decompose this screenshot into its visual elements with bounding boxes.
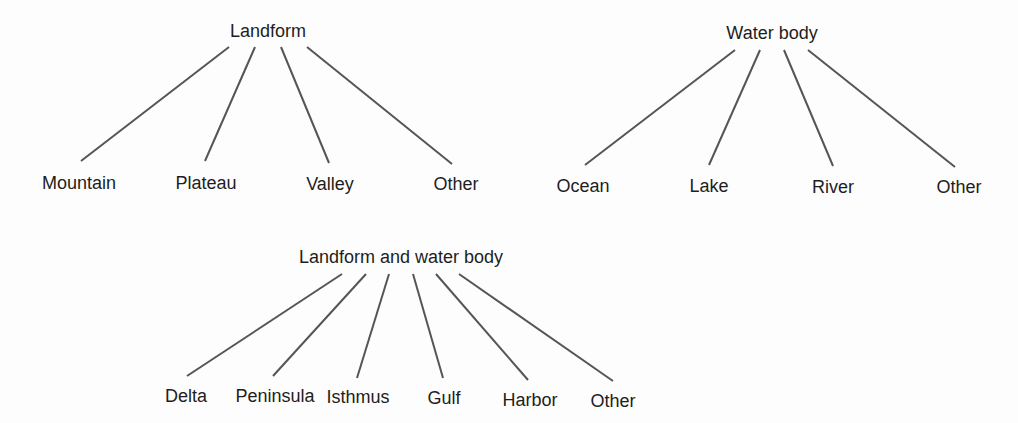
tree-leaf-peninsula: Peninsula (235, 387, 314, 405)
connector-line (808, 50, 955, 167)
tree-root-landform-and-water-body: Landform and water body (299, 248, 503, 266)
diagram-canvas: LandformMountainPlateauValleyOtherWater … (0, 0, 1018, 423)
connector-line (205, 47, 255, 161)
connector-line (81, 47, 229, 161)
connector-line (585, 50, 735, 165)
connector-line (357, 274, 389, 378)
tree-leaf-other: Other (936, 178, 981, 196)
tree-leaf-plateau: Plateau (175, 174, 236, 192)
tree-leaf-river: River (812, 178, 854, 196)
connector-line (307, 47, 452, 164)
tree-leaf-harbor: Harbor (502, 391, 557, 409)
connector-line (784, 50, 833, 166)
tree-leaf-mountain: Mountain (42, 174, 116, 192)
connector-line (413, 274, 443, 378)
tree-leaf-lake: Lake (689, 177, 728, 195)
tree-leaf-isthmus: Isthmus (326, 388, 389, 406)
tree-root-water-body: Water body (726, 24, 817, 42)
connector-lines (0, 0, 1018, 423)
tree-root-landform: Landform (230, 22, 306, 40)
tree-leaf-other: Other (590, 392, 635, 410)
tree-leaf-gulf: Gulf (427, 389, 460, 407)
tree-leaf-ocean: Ocean (556, 177, 609, 195)
connector-line (281, 47, 329, 163)
tree-leaf-delta: Delta (165, 387, 207, 405)
tree-leaf-other: Other (433, 175, 478, 193)
connector-line (709, 50, 760, 165)
tree-leaf-valley: Valley (306, 175, 354, 193)
